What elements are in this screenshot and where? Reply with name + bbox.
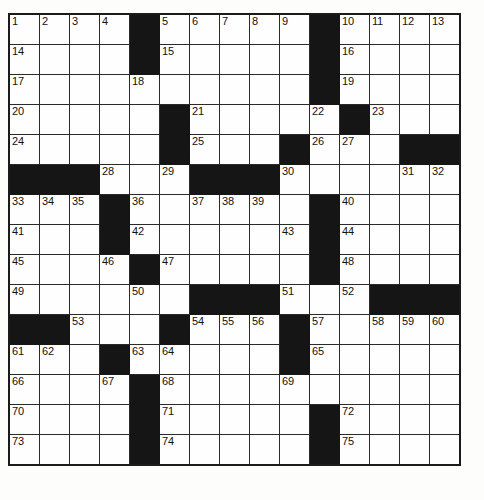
letter-cell[interactable] [430, 45, 461, 75]
letter-cell[interactable]: 19 [340, 75, 370, 105]
letter-cell[interactable] [370, 165, 400, 195]
letter-cell[interactable]: 75 [340, 435, 370, 466]
letter-cell[interactable] [130, 105, 160, 135]
letter-cell[interactable]: 23 [370, 105, 400, 135]
letter-cell[interactable]: 29 [160, 165, 190, 195]
letter-cell[interactable] [100, 105, 130, 135]
letter-cell[interactable]: 40 [340, 195, 370, 225]
letter-cell[interactable] [40, 435, 70, 466]
letter-cell[interactable] [100, 135, 130, 165]
letter-cell[interactable]: 16 [340, 45, 370, 75]
letter-cell[interactable] [400, 345, 430, 375]
letter-cell[interactable] [370, 405, 400, 435]
letter-cell[interactable] [100, 45, 130, 75]
letter-cell[interactable]: 26 [310, 135, 340, 165]
letter-cell[interactable]: 52 [340, 285, 370, 315]
letter-cell[interactable]: 2 [40, 14, 70, 45]
letter-cell[interactable]: 42 [130, 225, 160, 255]
letter-cell[interactable] [250, 345, 280, 375]
letter-cell[interactable]: 39 [250, 195, 280, 225]
letter-cell[interactable] [280, 405, 310, 435]
letter-cell[interactable] [40, 405, 70, 435]
letter-cell[interactable] [310, 285, 340, 315]
letter-cell[interactable] [70, 135, 100, 165]
letter-cell[interactable]: 48 [340, 255, 370, 285]
letter-cell[interactable] [430, 105, 461, 135]
letter-cell[interactable]: 73 [9, 435, 40, 466]
letter-cell[interactable] [250, 45, 280, 75]
letter-cell[interactable] [70, 345, 100, 375]
letter-cell[interactable] [130, 165, 160, 195]
letter-cell[interactable]: 54 [190, 315, 220, 345]
letter-cell[interactable] [190, 405, 220, 435]
letter-cell[interactable] [400, 45, 430, 75]
letter-cell[interactable]: 14 [9, 45, 40, 75]
letter-cell[interactable] [70, 75, 100, 105]
letter-cell[interactable]: 25 [190, 135, 220, 165]
letter-cell[interactable] [220, 375, 250, 405]
letter-cell[interactable] [220, 225, 250, 255]
letter-cell[interactable] [340, 345, 370, 375]
letter-cell[interactable] [250, 105, 280, 135]
letter-cell[interactable] [400, 375, 430, 405]
letter-cell[interactable]: 9 [280, 14, 310, 45]
letter-cell[interactable]: 33 [9, 195, 40, 225]
letter-cell[interactable] [340, 315, 370, 345]
letter-cell[interactable] [130, 135, 160, 165]
letter-cell[interactable] [160, 285, 190, 315]
letter-cell[interactable]: 24 [9, 135, 40, 165]
letter-cell[interactable]: 59 [400, 315, 430, 345]
letter-cell[interactable]: 53 [70, 315, 100, 345]
letter-cell[interactable] [220, 435, 250, 466]
letter-cell[interactable]: 58 [370, 315, 400, 345]
letter-cell[interactable] [280, 105, 310, 135]
letter-cell[interactable]: 1 [9, 14, 40, 45]
letter-cell[interactable] [280, 255, 310, 285]
letter-cell[interactable] [250, 405, 280, 435]
letter-cell[interactable]: 6 [190, 14, 220, 45]
letter-cell[interactable]: 74 [160, 435, 190, 466]
letter-cell[interactable]: 17 [9, 75, 40, 105]
letter-cell[interactable] [70, 45, 100, 75]
letter-cell[interactable]: 41 [9, 225, 40, 255]
letter-cell[interactable] [250, 225, 280, 255]
letter-cell[interactable]: 67 [100, 375, 130, 405]
letter-cell[interactable] [400, 195, 430, 225]
letter-cell[interactable] [100, 315, 130, 345]
letter-cell[interactable]: 31 [400, 165, 430, 195]
letter-cell[interactable]: 34 [40, 195, 70, 225]
letter-cell[interactable] [430, 255, 461, 285]
letter-cell[interactable]: 35 [70, 195, 100, 225]
letter-cell[interactable] [100, 405, 130, 435]
letter-cell[interactable] [190, 225, 220, 255]
letter-cell[interactable] [220, 45, 250, 75]
letter-cell[interactable]: 61 [9, 345, 40, 375]
letter-cell[interactable] [220, 405, 250, 435]
letter-cell[interactable] [400, 405, 430, 435]
letter-cell[interactable]: 45 [9, 255, 40, 285]
letter-cell[interactable]: 38 [220, 195, 250, 225]
letter-cell[interactable]: 69 [280, 375, 310, 405]
letter-cell[interactable] [130, 315, 160, 345]
letter-cell[interactable] [280, 195, 310, 225]
letter-cell[interactable]: 62 [40, 345, 70, 375]
letter-cell[interactable] [160, 75, 190, 105]
letter-cell[interactable]: 30 [280, 165, 310, 195]
letter-cell[interactable]: 36 [130, 195, 160, 225]
letter-cell[interactable]: 55 [220, 315, 250, 345]
letter-cell[interactable] [40, 255, 70, 285]
letter-cell[interactable] [430, 375, 461, 405]
letter-cell[interactable]: 7 [220, 14, 250, 45]
letter-cell[interactable] [70, 435, 100, 466]
letter-cell[interactable] [340, 165, 370, 195]
letter-cell[interactable]: 18 [130, 75, 160, 105]
letter-cell[interactable]: 32 [430, 165, 461, 195]
letter-cell[interactable] [70, 375, 100, 405]
letter-cell[interactable] [220, 105, 250, 135]
letter-cell[interactable] [190, 345, 220, 375]
letter-cell[interactable]: 68 [160, 375, 190, 405]
letter-cell[interactable] [160, 225, 190, 255]
letter-cell[interactable] [40, 75, 70, 105]
letter-cell[interactable]: 15 [160, 45, 190, 75]
letter-cell[interactable] [70, 255, 100, 285]
